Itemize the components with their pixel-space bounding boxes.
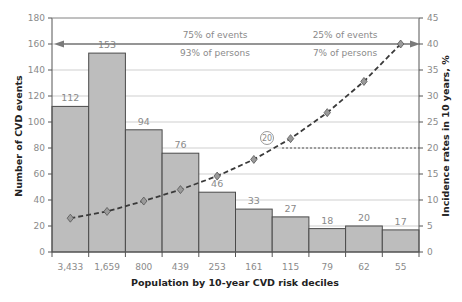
y-tick-label: 100 — [28, 117, 45, 127]
right-axis-ticks: 051015202530354045 — [419, 13, 439, 257]
diamond-marker-icon — [251, 155, 257, 163]
bar-value-label: 20 — [358, 212, 370, 223]
diamond-marker-icon — [287, 135, 293, 143]
bar — [346, 226, 383, 252]
y-tick-label: 60 — [34, 169, 46, 179]
annot-left-persons: 93% of persons — [180, 48, 250, 58]
y2-tick-label: 25 — [427, 117, 438, 127]
circled-marker-label: 20 — [262, 134, 272, 143]
y-tick-label: 0 — [39, 247, 45, 257]
bar-value-label: 18 — [321, 215, 333, 226]
bar — [309, 229, 346, 252]
x-tick-label: 3,433 — [57, 262, 83, 272]
bar — [272, 217, 309, 252]
y2-tick-label: 5 — [427, 221, 433, 231]
annot-right-persons: 7% of persons — [313, 48, 378, 58]
cvd-chart: 1121539476463327182017 75% of events93% … — [0, 0, 462, 302]
bar — [125, 130, 162, 252]
y2-tick-label: 30 — [427, 91, 439, 101]
bar — [89, 53, 126, 252]
bar-value-label: 76 — [174, 139, 186, 150]
bar — [236, 209, 273, 252]
x-tick-label: 115 — [282, 262, 299, 272]
x-axis-ticks: 3,4331,659800439253161115796255 — [52, 252, 419, 272]
x-tick-label: 1,659 — [94, 262, 120, 272]
bar-value-label: 94 — [138, 116, 150, 127]
y-tick-label: 120 — [28, 91, 45, 101]
x-tick-label: 79 — [322, 262, 334, 272]
y2-tick-label: 0 — [427, 247, 433, 257]
y2-tick-label: 40 — [427, 39, 439, 49]
x-tick-label: 62 — [358, 262, 369, 272]
y-tick-label: 80 — [34, 143, 46, 153]
y2-axis-title: Incidence rates in 10 years, % — [440, 55, 451, 217]
y-tick-label: 20 — [34, 221, 46, 231]
y2-tick-label: 15 — [427, 169, 438, 179]
bar — [162, 153, 199, 252]
bar-value-label: 27 — [285, 203, 297, 214]
x-tick-label: 800 — [135, 262, 152, 272]
bar — [382, 230, 419, 252]
y-axis-title: Number of CVD events — [13, 75, 24, 197]
y2-tick-label: 45 — [427, 13, 438, 23]
bar-value-label: 17 — [395, 216, 407, 227]
arrow-left-head-icon — [54, 41, 64, 48]
y-tick-label: 40 — [34, 195, 46, 205]
y2-tick-label: 20 — [427, 143, 439, 153]
bar-value-label: 33 — [248, 195, 260, 206]
y-tick-label: 140 — [28, 65, 45, 75]
y2-tick-label: 35 — [427, 65, 438, 75]
x-tick-label: 439 — [172, 262, 189, 272]
x-tick-label: 161 — [245, 262, 262, 272]
left-axis-ticks: 020406080100120140160180 — [28, 13, 52, 257]
bar — [199, 192, 236, 252]
bar — [52, 106, 89, 252]
y2-tick-label: 10 — [427, 195, 439, 205]
y-tick-label: 160 — [28, 39, 45, 49]
y-tick-label: 180 — [28, 13, 45, 23]
x-tick-label: 55 — [395, 262, 406, 272]
bar-value-label: 112 — [61, 92, 79, 103]
x-axis-title: Population by 10-year CVD risk deciles — [131, 277, 339, 288]
x-tick-label: 253 — [209, 262, 226, 272]
annot-left-events: 75% of events — [183, 30, 248, 40]
annot-right-events: 25% of events — [313, 30, 378, 40]
